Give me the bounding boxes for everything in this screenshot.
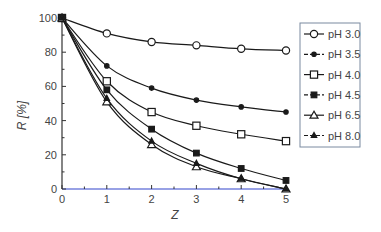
open-circle-marker <box>193 42 200 49</box>
y-tick-label: 0 <box>51 183 57 195</box>
open-square-marker <box>238 131 245 138</box>
filled-circle-marker <box>284 110 288 114</box>
open-square-marker <box>148 108 155 115</box>
filled-square-marker <box>194 150 200 156</box>
series-ph-6-5 <box>58 14 290 192</box>
y-tick-label: 60 <box>45 80 57 92</box>
legend-label: pH 4.0 <box>328 69 360 81</box>
x-tick-label: 1 <box>104 193 110 205</box>
x-tick-label: 4 <box>238 193 244 205</box>
filled-triangle-marker <box>194 160 199 165</box>
filled-circle-marker <box>105 64 109 68</box>
open-square-marker <box>193 122 200 129</box>
series-ph-3-0 <box>58 14 289 54</box>
filled-square-marker <box>238 166 244 172</box>
filled-square-marker <box>104 87 110 93</box>
open-circle-marker <box>282 47 289 54</box>
legend-label: pH 6.5 <box>328 109 360 121</box>
filled-square-marker <box>283 178 289 184</box>
legend-label: pH 8.0 <box>328 130 360 142</box>
open-circle-marker <box>238 45 245 52</box>
filled-circle-marker <box>312 52 316 56</box>
x-tick-label: 2 <box>149 193 155 205</box>
filled-circle-marker <box>194 98 198 102</box>
filled-circle-marker <box>149 86 153 90</box>
legend-label: pH 3.0 <box>328 28 360 40</box>
open-square-marker <box>310 71 317 78</box>
legend: pH 3.0pH 3.5pH 4.0pH 4.5pH 6.5pH 8.0 <box>300 23 360 147</box>
y-tick-label: 80 <box>45 46 57 58</box>
y-tick-label: 100 <box>39 12 57 24</box>
series-line <box>62 18 286 180</box>
x-tick-label: 5 <box>283 193 289 205</box>
line-chart: 012345020406080100ZR [%] pH 3.0pH 3.5pH … <box>0 0 381 232</box>
legend-label: pH 4.5 <box>328 89 360 101</box>
legend-item: pH 4.0 <box>304 69 360 81</box>
filled-square-marker <box>149 126 155 132</box>
filled-triangle-marker <box>239 176 244 181</box>
series-line <box>62 18 286 112</box>
y-axis-title: R [%] <box>15 100 29 130</box>
filled-circle-marker <box>239 105 243 109</box>
x-tick-label: 0 <box>59 193 65 205</box>
y-tick-label: 40 <box>45 115 57 127</box>
y-tick-label: 20 <box>45 149 57 161</box>
open-circle-marker <box>148 38 155 45</box>
open-square-marker <box>282 138 289 145</box>
legend-label: pH 3.5 <box>328 48 360 60</box>
series-line <box>62 18 286 50</box>
x-tick-label: 3 <box>193 193 199 205</box>
x-axis-title: Z <box>170 208 179 222</box>
legend-box <box>300 23 360 147</box>
series-group <box>58 14 290 192</box>
filled-triangle-marker <box>283 186 288 191</box>
open-circle-marker <box>103 30 110 37</box>
open-circle-marker <box>310 30 317 37</box>
filled-square-marker <box>311 92 317 98</box>
series-ph-8-0 <box>59 15 288 191</box>
filled-triangle-marker <box>149 138 154 143</box>
open-square-marker <box>103 78 110 85</box>
